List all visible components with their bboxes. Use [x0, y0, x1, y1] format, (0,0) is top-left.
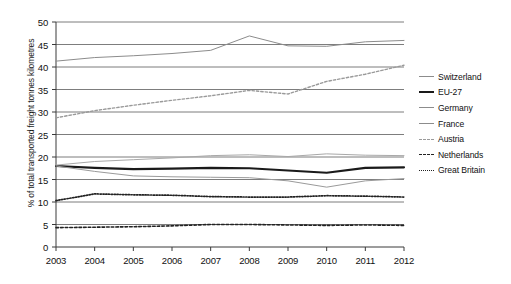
x-tick-label-2006: 2006	[152, 255, 192, 266]
legend-item-switzerland[interactable]: Switzerland	[419, 69, 511, 85]
legend-label: Great Britain	[438, 165, 485, 175]
x-tick-label-2003: 2003	[36, 255, 76, 266]
series-line-austria	[56, 65, 404, 118]
legend-item-austria[interactable]: Austria	[419, 131, 511, 147]
legend-swatch-icon	[419, 107, 434, 108]
legend: SwitzerlandEU-27GermanyFranceAustriaNeth…	[419, 69, 511, 178]
y-tick-label-30: 30	[28, 107, 48, 118]
legend-swatch-icon	[419, 154, 434, 155]
y-tick-label-45: 45	[28, 39, 48, 50]
y-tick-label-15: 15	[28, 174, 48, 185]
series-line-netherlands	[56, 225, 404, 228]
legend-label: Switzerland	[438, 72, 481, 82]
legend-item-eu-27[interactable]: EU-27	[419, 85, 511, 101]
x-tick-label-2008: 2008	[229, 255, 269, 266]
legend-swatch-icon	[419, 123, 434, 124]
y-tick-label-25: 25	[28, 129, 48, 140]
legend-item-netherlands[interactable]: Netherlands	[419, 147, 511, 163]
legend-label: Austria	[438, 134, 464, 144]
legend-swatch-icon	[419, 76, 434, 77]
x-tick-label-2010: 2010	[307, 255, 347, 266]
legend-item-germany[interactable]: Germany	[419, 100, 511, 116]
legend-label: EU-27	[438, 87, 462, 97]
y-tick-label-5: 5	[28, 219, 48, 230]
legend-label: France	[438, 119, 464, 129]
y-tick-label-0: 0	[28, 242, 48, 253]
series-line-eu-27	[56, 166, 404, 173]
x-tick-label-2004: 2004	[75, 255, 115, 266]
x-tick-label-2011: 2011	[345, 255, 385, 266]
legend-item-france[interactable]: France	[419, 116, 511, 132]
legend-item-great-britain[interactable]: Great Britain	[419, 163, 511, 179]
legend-label: Germany	[438, 103, 473, 113]
y-tick-label-50: 50	[28, 17, 48, 28]
line-chart: % of total transported freight tonnes ki…	[0, 0, 511, 284]
x-tick-label-2009: 2009	[268, 255, 308, 266]
series-line-germany	[56, 154, 404, 165]
series-line-great-britain	[56, 194, 404, 201]
x-tick-label-2005: 2005	[113, 255, 153, 266]
legend-swatch-icon	[419, 139, 434, 140]
series-line-switzerland	[56, 36, 404, 61]
legend-swatch-icon	[419, 170, 434, 171]
y-tick-label-40: 40	[28, 62, 48, 73]
x-tick-label-2012: 2012	[384, 255, 424, 266]
y-tick-label-10: 10	[28, 197, 48, 208]
y-tick-label-20: 20	[28, 152, 48, 163]
legend-label: Netherlands	[438, 150, 483, 160]
y-tick-label-35: 35	[28, 84, 48, 95]
x-tick-label-2007: 2007	[191, 255, 231, 266]
legend-swatch-icon	[419, 91, 434, 93]
y-axis-tick-labels: 05101520253035404550	[24, 0, 48, 284]
